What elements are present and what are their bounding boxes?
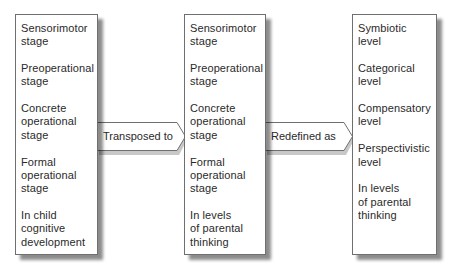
item-formal-operational-stage: Formal operational stage [21,156,97,196]
arrow-label-transposed-to: Transposed to [103,122,173,151]
item-symbiotic-level: Symbiotic level [358,22,436,49]
item-context-child-cognitive: In child cognitive development [21,209,97,249]
item-preoperational-stage: Preoperational stage [190,62,265,89]
arrow-label-redefined-as: Redefined as [271,122,336,151]
box-child-cognitive-stages: Sensorimotor stage Preoperational stage … [15,14,98,255]
item-context-parental-thinking: In levels of parental thinking [190,209,265,249]
item-sensorimotor-stage: Sensorimotor stage [190,22,265,49]
item-sensorimotor-stage: Sensorimotor stage [21,22,97,49]
box-parental-levels: Symbiotic level Categorical level Compen… [352,14,437,255]
item-categorical-level: Categorical level [358,62,436,89]
item-perspectivistic-level: Perspectivistic level [358,142,436,169]
item-preoperational-stage: Preoperational stage [21,62,97,89]
item-concrete-operational-stage: Concrete operational stage [190,102,265,142]
arrow-transposed-to: Transposed to [97,122,187,151]
box-transposed-stages: Sensorimotor stage Preoperational stage … [184,14,266,255]
item-formal-operational-stage: Formal operational stage [190,156,265,196]
arrow-redefined-as: Redefined as [265,122,354,151]
item-concrete-operational-stage: Concrete operational stage [21,102,97,142]
item-context-parental-thinking: In levels of parental thinking [358,182,436,222]
item-compensatory-level: Compensatory level [358,102,436,129]
